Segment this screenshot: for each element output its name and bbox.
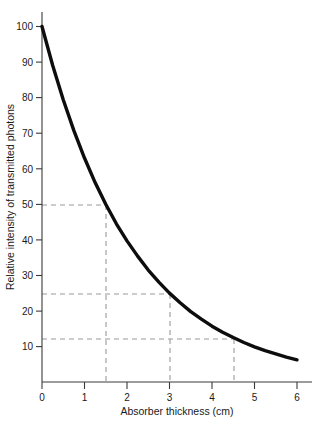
y-tick-label-20: 20 <box>22 306 34 317</box>
x-tick-label-0: 0 <box>39 392 45 403</box>
y-tick-label-90: 90 <box>22 57 34 68</box>
y-tick-label-50: 50 <box>22 199 34 210</box>
chart-background <box>0 0 318 424</box>
y-tick-label-70: 70 <box>22 128 34 139</box>
y-tick-label-60: 60 <box>22 164 34 175</box>
y-tick-label-80: 80 <box>22 92 34 103</box>
x-tick-label-1: 1 <box>82 392 88 403</box>
x-tick-label-4: 4 <box>209 392 215 403</box>
chart-figure: 100 90 80 70 60 50 40 30 20 10 0 1 2 3 <box>0 0 318 424</box>
x-tick-label-6: 6 <box>294 392 300 403</box>
x-tick-label-5: 5 <box>252 392 258 403</box>
y-tick-label-40: 40 <box>22 235 34 246</box>
y-tick-label-10: 10 <box>22 341 34 352</box>
y-tick-label-30: 30 <box>22 270 34 281</box>
x-tick-label-3: 3 <box>167 392 173 403</box>
y-axis-title: Relative intensity of transmitted photon… <box>4 104 16 290</box>
x-tick-label-2: 2 <box>124 392 130 403</box>
y-tick-label-100: 100 <box>16 21 33 32</box>
exponential-attenuation-chart: 100 90 80 70 60 50 40 30 20 10 0 1 2 3 <box>0 0 318 424</box>
x-axis-title: Absorber thickness (cm) <box>120 405 233 417</box>
